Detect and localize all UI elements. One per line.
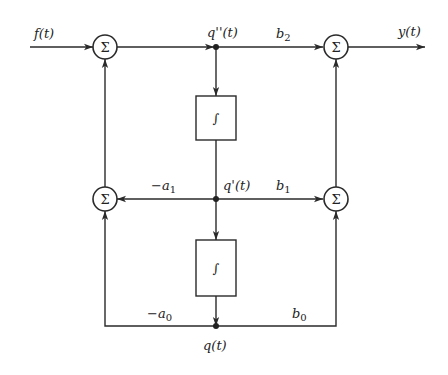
gain-b0-label: b0 bbox=[292, 306, 307, 323]
junction-q bbox=[213, 323, 219, 329]
sum-output-node: Σ bbox=[324, 35, 348, 59]
junction-qd bbox=[213, 196, 219, 202]
gain-b2-label: b2 bbox=[276, 26, 291, 43]
input-label: f(t) bbox=[33, 26, 54, 41]
q-label: q(t) bbox=[203, 338, 227, 353]
gain-a0-label: −a0 bbox=[147, 306, 172, 323]
sigma-icon: Σ bbox=[100, 40, 109, 55]
qdd-label: q''(t) bbox=[207, 25, 238, 40]
integral-icon: ∫ bbox=[213, 111, 220, 126]
qd-label: q'(t) bbox=[223, 178, 250, 193]
gain-a1-label: −a1 bbox=[151, 178, 176, 195]
output-label: y(t) bbox=[397, 24, 421, 39]
sigma-icon: Σ bbox=[331, 192, 340, 207]
sigma-icon: Σ bbox=[331, 40, 340, 55]
integral-icon: ∫ bbox=[213, 261, 220, 276]
sigma-icon: Σ bbox=[100, 192, 109, 207]
junction-qdd bbox=[213, 44, 219, 50]
block-diagram: Σ Σ Σ Σ ∫ ∫ f(t) q''(t) y(t) q'(t) q(t) … bbox=[0, 0, 448, 375]
sum-input-node: Σ bbox=[93, 35, 117, 59]
gain-b1-label: b1 bbox=[276, 178, 291, 195]
sum-feedforward-node: Σ bbox=[324, 187, 348, 211]
sum-feedback-node: Σ bbox=[93, 187, 117, 211]
